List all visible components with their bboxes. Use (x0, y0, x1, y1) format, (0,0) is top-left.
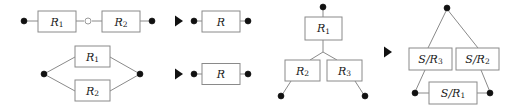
terminal-node-filled (245, 71, 251, 77)
figure-canvas: R1 R2 R (0, 0, 506, 111)
parallel-rule-group: R1 R2 R (41, 46, 251, 101)
wire-segment (44, 74, 75, 91)
terminal-node-filled (362, 93, 368, 99)
wire-segment (44, 57, 75, 74)
wire-segment (355, 81, 364, 95)
arrow-head (175, 16, 183, 27)
wire-segment (110, 74, 140, 91)
resistor-box-label: R (216, 16, 225, 29)
terminal-node-filled (412, 90, 418, 96)
parallel-rule-arrow (164, 69, 183, 80)
wire-segment (323, 52, 337, 60)
arrow-head (384, 47, 392, 58)
series-rhs: R (191, 11, 251, 32)
series-rule-arrow (164, 16, 183, 27)
terminal-node-filled (41, 71, 47, 77)
terminal-node-filled (191, 71, 197, 77)
terminal-node-filled (278, 93, 284, 99)
star-delta-rule-arrow (374, 47, 392, 58)
wire-segment (310, 52, 323, 60)
terminal-node-filled (137, 71, 143, 77)
arrow-head (175, 69, 183, 80)
wire-segment (447, 9, 478, 48)
terminal-node-filled (149, 18, 155, 24)
terminal-node-filled (487, 90, 493, 96)
wire-segment (428, 9, 447, 48)
star-delta-rule-group: R1 R2 R3 S/R3 S/R2 (278, 4, 499, 104)
terminal-node-filled (21, 18, 27, 24)
series-rule-group: R1 R2 R (21, 11, 251, 32)
parallel-lhs-boxes: R1 R2 (75, 46, 110, 101)
parallel-rhs: R (191, 64, 251, 85)
parallel-lhs-nodes (41, 71, 143, 77)
terminal-node-filled (191, 18, 197, 24)
wire-segment (282, 81, 291, 95)
internal-node-open (85, 18, 91, 24)
resistor-reduction-figure: R1 R2 R (0, 0, 506, 111)
terminal-node-filled (245, 18, 251, 24)
terminal-node-filled (320, 4, 326, 10)
terminal-node-filled (444, 5, 450, 11)
resistor-box-label: R (216, 68, 225, 81)
wire-segment (415, 70, 425, 92)
wire-segment (110, 57, 140, 74)
wire-segment (481, 70, 490, 92)
